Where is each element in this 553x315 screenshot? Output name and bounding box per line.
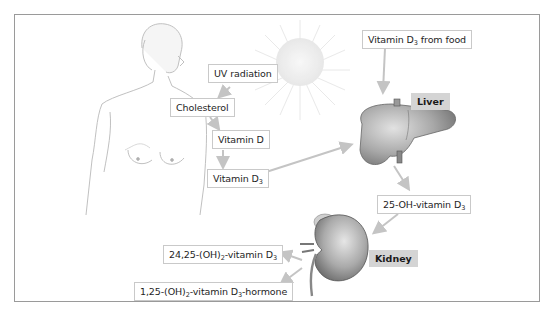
node-1-25-oh2-vitamin-d3-hormone: 1,25-(OH)2-vitamin D3-hormone [134,282,293,301]
node-vitamin-d3: Vitamin D3 [207,169,269,188]
node-25-oh-vitamin-d3: 25-OH-vitamin D3 [377,195,471,214]
node-vitamin-d3-from-food: Vitamin D3 from food [362,30,472,49]
arrow-vitamind3-to-liver [263,145,350,173]
arrow-liver-to-25oh [394,166,408,188]
arrow-food-to-liver [383,48,385,91]
node-24-25-oh2-vitamin-d3: 24,25-(OH)2-vitamin D3 [163,245,283,264]
arrow-25oh-to-kidney [375,214,398,232]
node-uv-radiation: UV radiation [208,64,278,83]
organ-label-kidney: Kidney [369,250,418,267]
arrow-uv-to-cholesterol [220,87,230,96]
node-vitamin-d: Vitamin D [212,130,270,149]
woman-torso-illustration [86,24,207,215]
organ-label-liver: Liver [411,93,450,110]
arrow-kidney-to-2425 [282,253,302,260]
arrow-kidney-to-125 [282,268,302,283]
kidney-illustration [300,214,368,296]
node-cholesterol: Cholesterol [170,98,235,117]
arrow-cholesterol-to-vitamind [210,117,218,128]
